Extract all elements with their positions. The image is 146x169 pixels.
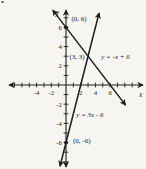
point-dot — [64, 26, 68, 30]
equation-label: y = -x + 6 — [100, 53, 130, 61]
x-tick-label: -2 — [48, 89, 54, 96]
y-tick-label: -4 — [56, 120, 62, 127]
point-label: (0, 6) — [72, 15, 88, 23]
point-label: (0, -6) — [73, 137, 91, 145]
x-tick-label: 6 — [108, 89, 112, 96]
textbook-figure: . -4-2246642-2-4-6xy(0, 6)(3, 3)(0, -6)y… — [0, 0, 146, 169]
x-tick-label: 4 — [94, 89, 98, 96]
x-tick-label: -4 — [34, 89, 40, 96]
y-tick-label: -2 — [56, 101, 62, 108]
y-tick-label: 2 — [59, 62, 63, 69]
equation-label: y = 3x - 6 — [75, 111, 104, 119]
point-dot — [64, 141, 68, 145]
y-tick-label: 6 — [59, 24, 63, 31]
y-tick-label: 4 — [59, 43, 63, 50]
coordinate-plane-graph: -4-2246642-2-4-6xy(0, 6)(3, 3)(0, -6)y =… — [0, 0, 146, 169]
y-tick-label: -6 — [56, 139, 62, 146]
point-label: (3, 3) — [69, 53, 85, 61]
x-axis-label: x — [138, 90, 143, 99]
